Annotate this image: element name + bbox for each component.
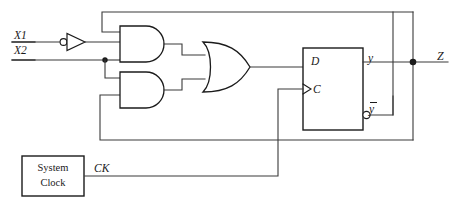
wire-and-top-to-or: [164, 44, 205, 55]
flipflop-c-label: C: [313, 84, 321, 96]
and-gate-top-icon: [120, 26, 164, 62]
system-clock-line1: System: [22, 160, 84, 175]
flipflop-d-label: D: [311, 56, 319, 68]
wire-ck-to-c: [85, 89, 303, 176]
and-gate-bottom-icon: [120, 72, 164, 108]
flipflop-q-label: y: [368, 53, 373, 65]
system-clock-line2: Clock: [22, 175, 84, 190]
junction-dot-z: [410, 59, 417, 66]
output-label-z: Z: [437, 50, 444, 62]
wire-and-bottom-to-or: [164, 79, 205, 90]
input-label-x1: X1: [14, 30, 27, 42]
clock-signal-label: CK: [94, 163, 109, 175]
not-gate-bubble-icon: [60, 39, 67, 46]
flipflop-qbar-text: y: [369, 103, 374, 115]
system-clock-label: System Clock: [22, 160, 84, 190]
input-label-x2: X2: [14, 45, 27, 57]
wire-x2-to-and-bottom: [105, 60, 120, 78]
circuit-diagram: X1 X2 D C y y Z CK System Clock: [0, 0, 461, 211]
flipflop-qbar-label: y: [369, 102, 377, 116]
or-gate-icon: [203, 42, 250, 92]
not-gate-icon: [67, 34, 85, 51]
